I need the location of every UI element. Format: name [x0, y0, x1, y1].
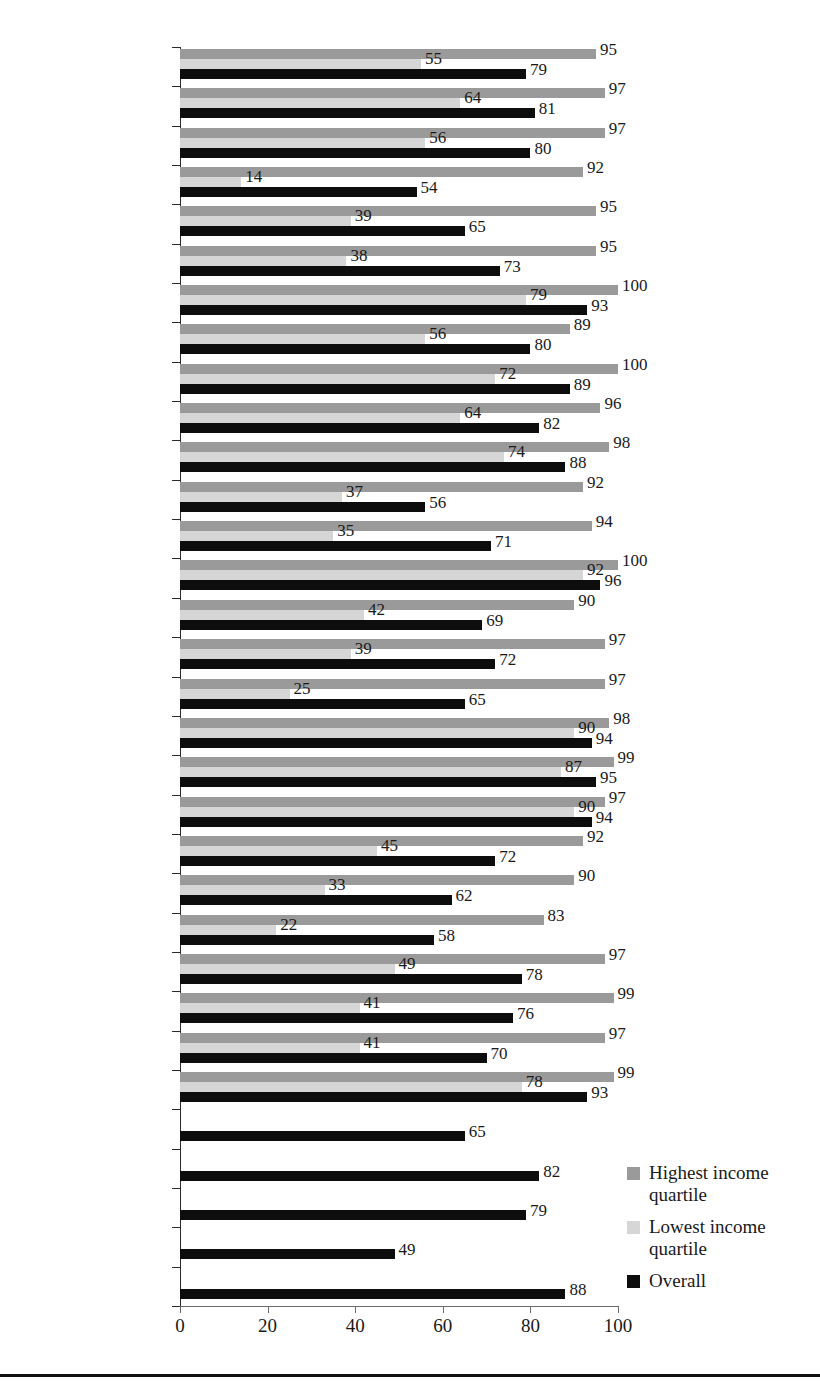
bar-overall — [180, 423, 539, 433]
bar-value-label: 97 — [609, 675, 626, 685]
bar-overall — [180, 738, 592, 748]
legend-label: Overall — [649, 1270, 706, 1292]
bar-highest — [180, 875, 574, 885]
x-axis-tick — [530, 1306, 531, 1313]
chart-category-row: Malta79 — [180, 1188, 618, 1227]
chart-category-row: Latvia973972 — [180, 637, 618, 676]
bar-lowest — [180, 689, 290, 699]
chart-category-row: Poland924572 — [180, 834, 618, 873]
y-axis-tick — [172, 519, 180, 520]
bar-overall — [180, 1289, 565, 1299]
bar-value-label: 100 — [622, 281, 648, 291]
legend-label: Highest income quartile — [649, 1162, 817, 1207]
y-axis-tick — [172, 1227, 180, 1228]
bar-value-label: 80 — [534, 144, 551, 154]
bar-value-label: 90 — [578, 871, 595, 881]
bar-overall — [180, 1210, 526, 1220]
x-axis-tick-label: 20 — [238, 1315, 298, 1337]
bar-value-label: 65 — [469, 222, 486, 232]
bar-value-label: 98 — [613, 714, 630, 724]
bar-highest — [180, 797, 605, 807]
bar-lowest — [180, 334, 425, 344]
bar-value-label: 39 — [355, 644, 372, 654]
bar-highest — [180, 993, 614, 1003]
bar-lowest — [180, 177, 241, 187]
bar-overall — [180, 659, 495, 669]
chart-category-row: Cyprus953965 — [180, 204, 618, 243]
bar-value-label: 100 — [622, 556, 648, 566]
bar-overall — [180, 108, 535, 118]
bar-highest — [180, 364, 618, 374]
bar-value-label: 99 — [618, 753, 635, 763]
chart-legend: Highest income quartileLowest income qua… — [627, 1162, 817, 1301]
bar-value-label: 55 — [425, 54, 442, 64]
bar-overall — [180, 580, 600, 590]
bar-overall — [180, 187, 417, 197]
bar-value-label: 69 — [486, 616, 503, 626]
bar-value-label: 99 — [618, 989, 635, 999]
bar-value-label: 95 — [600, 45, 617, 55]
bar-value-label: 39 — [355, 211, 372, 221]
y-axis-tick — [172, 47, 180, 48]
x-axis-tick-label: 100 — [588, 1315, 648, 1337]
bar-highest — [180, 442, 609, 452]
bar-lowest — [180, 59, 421, 69]
chart-category-row: Belgium975680 — [180, 126, 618, 165]
bar-value-label: 87 — [565, 762, 582, 772]
bar-highest — [180, 679, 605, 689]
x-axis-tick — [355, 1306, 356, 1313]
bar-lowest — [180, 295, 526, 305]
bar-value-label: 88 — [569, 458, 586, 468]
bar-lowest — [180, 610, 364, 620]
bar-value-label: 79 — [530, 65, 547, 75]
bar-value-label: 96 — [604, 399, 621, 409]
bar-value-label: 64 — [464, 408, 481, 418]
bar-value-label: 14 — [245, 172, 262, 182]
bar-value-label: 80 — [534, 340, 551, 350]
bar-highest — [180, 128, 605, 138]
chart-category-row: United Kingdom88 — [180, 1267, 618, 1306]
bar-lowest — [180, 98, 460, 108]
chart-category-row: Sweden997893 — [180, 1070, 618, 1109]
y-axis-tick — [172, 558, 180, 559]
bar-overall — [180, 1171, 539, 1181]
x-axis-tick — [443, 1306, 444, 1313]
bar-value-label: 94 — [596, 734, 613, 744]
bar-overall — [180, 620, 482, 630]
bar-overall — [180, 974, 522, 984]
bar-highest — [180, 206, 596, 216]
bar-value-label: 97 — [609, 1029, 626, 1039]
bar-value-label: 94 — [596, 813, 613, 823]
bar-lowest — [180, 925, 276, 935]
y-axis-tick — [172, 1070, 180, 1071]
bar-overall — [180, 895, 452, 905]
x-axis-tick-label: 60 — [413, 1315, 473, 1337]
bar-value-label: 83 — [548, 911, 565, 921]
bar-value-label: 92 — [587, 832, 604, 842]
x-axis-tick-label: 80 — [500, 1315, 560, 1337]
bar-overall — [180, 817, 592, 827]
bar-highest — [180, 757, 614, 767]
bar-overall — [180, 935, 434, 945]
bar-lowest — [180, 138, 425, 148]
bottom-rule — [0, 1374, 820, 1377]
bar-value-label: 56 — [429, 329, 446, 339]
y-axis-tick — [172, 873, 180, 874]
bar-value-label: 76 — [517, 1009, 534, 1019]
bar-highest — [180, 560, 618, 570]
legend-swatch-icon — [627, 1221, 640, 1234]
x-axis-tick-label: 0 — [150, 1315, 210, 1337]
bar-value-label: 95 — [600, 242, 617, 252]
bar-lowest — [180, 885, 325, 895]
bar-highest — [180, 1072, 614, 1082]
bar-lowest — [180, 767, 561, 777]
bar-value-label: 49 — [399, 959, 416, 969]
bar-lowest — [180, 452, 504, 462]
bar-value-label: 97 — [609, 950, 626, 960]
bar-overall — [180, 1092, 587, 1102]
bar-overall — [180, 541, 491, 551]
bar-value-label: 81 — [539, 104, 556, 114]
bar-value-label: 54 — [421, 183, 438, 193]
legend-swatch-icon — [627, 1167, 640, 1180]
bar-highest — [180, 88, 605, 98]
